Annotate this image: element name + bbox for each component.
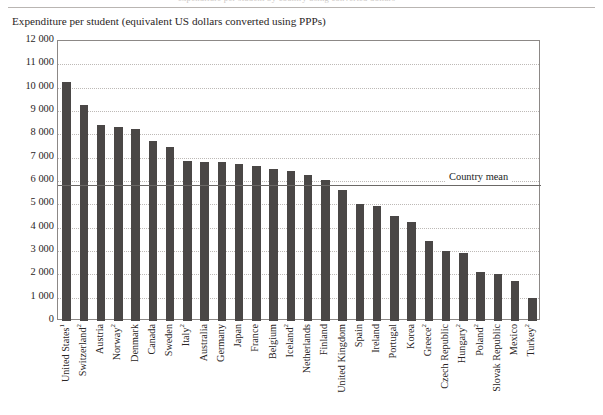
x-axis-tick-label: United States1 (60, 324, 71, 382)
footnote-marker: 2 (455, 324, 463, 328)
x-axis-label-slot: United Kingdom (333, 322, 350, 415)
footnote-marker: 1 (58, 324, 66, 328)
x-axis-tick-label: Finland (319, 324, 330, 355)
bar (97, 125, 105, 321)
x-axis-tick-label: Hungary2 (457, 324, 468, 363)
country-mean-label: Country mean (446, 171, 511, 182)
x-axis-tick-label: Ireland (371, 324, 382, 353)
bar (321, 180, 329, 321)
bar (200, 162, 208, 321)
x-axis-label-slot: Slovak Republic (488, 322, 505, 415)
bar (114, 127, 122, 321)
x-axis-label-slot: Ireland (368, 322, 385, 415)
x-axis-tick-label: Germany (216, 324, 227, 362)
bar (252, 166, 260, 321)
x-axis-label-slot: Italy2 (178, 322, 195, 415)
x-axis-label-slot: Canada (143, 322, 160, 415)
x-axis-label-slot: Korea (402, 322, 419, 415)
x-axis-label-slot: Japan (230, 322, 247, 415)
y-axis-tick-label: 7 000 (4, 150, 54, 161)
x-axis-tick-label: Austria (95, 324, 106, 354)
clipped-header-strip: expenditure per student by country using… (8, 0, 595, 6)
x-axis-label-slot: Greece2 (419, 322, 436, 415)
x-axis-label-slot: Portugal (385, 322, 402, 415)
x-axis-label-slot: Denmark (126, 322, 143, 415)
footnote-marker: 2 (75, 324, 83, 328)
x-axis-tick-label: Czech Republic (440, 324, 451, 389)
x-axis-label-slot: Turkey2 (523, 322, 540, 415)
bar (511, 281, 519, 321)
x-axis-label-slot: Switzerland2 (74, 322, 91, 415)
bar (218, 162, 226, 321)
x-axis-label-slot: Austria (92, 322, 109, 415)
y-axis-tick-label: 10 000 (4, 80, 54, 91)
bar (407, 222, 415, 321)
x-axis-tick-label: Greece2 (423, 324, 434, 356)
plot-inner: Country mean (58, 41, 539, 319)
x-axis-tick-label: Turkey2 (526, 324, 537, 357)
x-axis-label-slot: Sweden (161, 322, 178, 415)
x-axis-label-slot: United States1 (57, 322, 74, 415)
x-axis-label-slot: Czech Republic (437, 322, 454, 415)
x-axis-tick-label: Australia (198, 324, 209, 361)
bar (149, 141, 157, 321)
x-axis-tick-labels: United States1Switzerland2AustriaNorway2… (57, 322, 540, 415)
bar (356, 204, 364, 321)
bar (442, 251, 450, 321)
bar (494, 274, 502, 321)
x-axis-label-slot: Belgium (264, 322, 281, 415)
bar (459, 253, 467, 321)
x-axis-label-slot: Mexico (506, 322, 523, 415)
chart-title: Expenditure per student (equivalent US d… (12, 14, 326, 28)
bar (131, 129, 139, 322)
country-mean-line (58, 185, 541, 186)
bar (269, 169, 277, 321)
x-axis-tick-label: Sweden (164, 324, 175, 356)
y-axis-tick-label: 0 (4, 313, 54, 324)
y-axis-tick-label: 9 000 (4, 103, 54, 114)
x-axis-label-slot: France (247, 322, 264, 415)
x-axis-tick-label: France (250, 324, 261, 352)
y-axis-tick-label: 8 000 (4, 126, 54, 137)
x-axis-tick-label: Mexico (509, 324, 520, 355)
x-axis-tick-label: Poland2 (474, 324, 485, 356)
x-axis-tick-label: Portugal (388, 324, 399, 359)
x-axis-tick-label: Slovak Republic (492, 324, 503, 392)
footnote-marker: 2 (420, 324, 428, 328)
x-axis-label-slot: Hungary2 (454, 322, 471, 415)
bar (528, 298, 536, 321)
x-axis-tick-label: Korea (405, 324, 416, 349)
x-axis-tick-label: Spain (354, 324, 365, 347)
bar (425, 241, 433, 322)
x-axis-label-slot: Norway2 (109, 322, 126, 415)
bar (373, 206, 381, 322)
bar (80, 105, 88, 321)
bar (287, 171, 295, 322)
bar (166, 147, 174, 321)
x-axis-tick-label: Belgium (267, 324, 278, 359)
x-axis-tick-label: Denmark (129, 324, 140, 362)
x-axis-tick-label: Italy2 (181, 324, 192, 346)
x-axis-tick-label: Canada (147, 324, 158, 355)
x-axis-tick-label: Switzerland2 (78, 324, 89, 376)
x-axis-tick-label: Norway2 (112, 324, 123, 360)
plot-area: Country mean (57, 40, 540, 320)
x-axis-tick-label: Japan (233, 324, 244, 347)
bar (338, 190, 346, 321)
x-axis-label-slot: Poland2 (471, 322, 488, 415)
footnote-marker: 2 (179, 324, 187, 328)
bar (304, 175, 312, 321)
x-axis-label-slot: Spain (350, 322, 367, 415)
y-axis-tick-label: 11 000 (4, 56, 54, 67)
footnote-marker: 2 (110, 324, 118, 328)
y-axis-tick-label: 2 000 (4, 266, 54, 277)
x-axis-label-slot: Germany (212, 322, 229, 415)
x-axis-label-slot: Iceland2 (281, 322, 298, 415)
x-axis-label-slot: Finland (316, 322, 333, 415)
x-axis-label-slot: Netherlands (299, 322, 316, 415)
x-axis-tick-label: Netherlands (302, 324, 313, 373)
footnote-marker: 2 (472, 324, 480, 328)
bar (390, 216, 398, 321)
y-axis-tick-label: 5 000 (4, 196, 54, 207)
y-axis-tick-label: 4 000 (4, 220, 54, 231)
